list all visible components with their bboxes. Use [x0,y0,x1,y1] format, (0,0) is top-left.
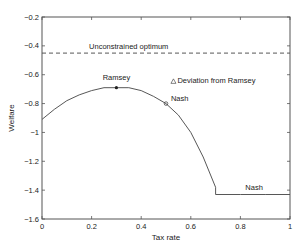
plot-area [42,53,290,194]
x-tick-label: 0.4 [136,222,146,231]
annotation-label: Unconstrained optimum [89,42,168,51]
y-tick-label: −0.8 [24,99,39,108]
y-axis-label: Welfare [7,104,16,132]
welfare-chart: 00.20.40.60.81 −0.2−0.4−0.6−0.8−1−1.2−1.… [0,0,306,248]
x-tick-label: 0 [40,222,44,231]
ramsey-marker [115,86,118,89]
triangle-icon [171,79,176,84]
annotation-label: Nash [171,94,189,103]
x-axis-label: Tax rate [152,233,181,242]
annotations: Unconstrained optimumRamseyDeviation fro… [89,42,263,192]
welfare-curve [42,88,290,195]
annotation-label: Ramsey [103,73,131,82]
y-tick-label: −1.4 [24,186,39,195]
x-tick-label: 0.2 [86,222,96,231]
annotation-label: Nash [245,183,263,192]
x-tick-label: 0.6 [186,222,196,231]
y-tick-label: −0.2 [24,13,39,22]
y-tick-label: −0.6 [24,70,39,79]
y-tick-label: −1 [30,128,39,137]
y-tick-label: −1.6 [24,215,39,224]
y-tick-label: −0.4 [24,41,39,50]
x-tick-label: 0.8 [235,222,245,231]
annotation-label: Deviation from Ramsey [177,76,255,85]
y-tick-label: −1.2 [24,157,39,166]
x-tick-label: 1 [288,222,292,231]
